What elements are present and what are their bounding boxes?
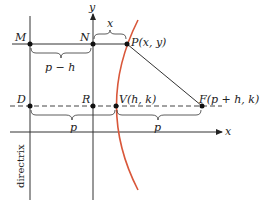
label-f: F(p + h, k) (198, 93, 259, 106)
point-d (28, 104, 33, 109)
brace-label-p-minus-h: p − h (45, 61, 75, 74)
label-m: M (14, 31, 27, 44)
brace-label-x: x (107, 17, 114, 30)
brace-p-minus-h (31, 48, 91, 58)
point-v (114, 104, 119, 109)
directrix-label: directrix (15, 144, 26, 188)
x-axis-label: x (225, 125, 232, 138)
brace-v-f (117, 110, 201, 120)
label-d: D (16, 93, 26, 106)
point-n (91, 42, 96, 47)
label-r: R (81, 93, 90, 106)
diagram-canvas: y x M N P(x, y) D R V(h, k) F(p + h, k) … (0, 0, 263, 206)
point-m (28, 42, 33, 47)
brace-label-p-left: p (70, 121, 77, 134)
parabola-diagram: y x M N P(x, y) D R V(h, k) F(p + h, k) … (0, 0, 263, 206)
brace-x (94, 30, 126, 39)
label-n: N (79, 31, 90, 44)
point-r (91, 104, 96, 109)
label-p: P(x, y) (130, 36, 166, 49)
y-axis-label: y (88, 1, 96, 14)
label-v: V(h, k) (119, 93, 156, 106)
brace-label-p-right: p (154, 121, 161, 134)
point-p (125, 42, 130, 47)
brace-d-v (31, 110, 115, 120)
